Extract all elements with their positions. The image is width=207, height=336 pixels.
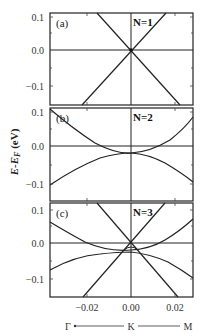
panel-a: (a) N=1 0.1 0.0 −0.1: [26, 12, 193, 105]
panel-c: (c) N=3 0.1 0.0 −0.1: [26, 203, 193, 297]
panel-c-upper-band: [50, 219, 193, 250]
y-axis-label: E-EF (eV): [8, 128, 22, 176]
xtick-0: −0.02: [75, 302, 98, 313]
panel-c-tag: (c): [56, 207, 69, 220]
panel-a-dirac-point: [129, 48, 133, 52]
panel-b-n-label: N=2: [133, 111, 153, 123]
panel-a-ytick-2: −0.1: [26, 81, 44, 92]
xtick-2: 0.02: [166, 302, 184, 313]
kpath-gamma: Γ: [65, 321, 71, 332]
kpath-k: K: [127, 321, 135, 332]
panel-a-frame: [50, 13, 193, 105]
panel-c-ytick-2: −0.1: [26, 274, 44, 285]
panel-c-ytick-1: 0.0: [32, 238, 45, 249]
panel-b-frame: [50, 108, 193, 201]
panel-a-ticks: [50, 13, 193, 105]
panel-b-tag: (b): [56, 112, 69, 125]
kpath-m: M: [184, 321, 193, 332]
panel-a-ytick-1: 0.0: [32, 45, 45, 56]
panel-b-valence-band: [50, 153, 193, 185]
panel-b-ticks: [50, 108, 193, 201]
panel-b-ytick-1: 0.0: [32, 141, 45, 152]
band-structure-figure: (a) N=1 0.1 0.0 −0.1 (b) N=2 0.1 0.0 −0.…: [0, 0, 207, 336]
panel-b-ytick-2: −0.1: [26, 179, 44, 190]
panel-b: (b) N=2 0.1 0.0 −0.1: [26, 107, 193, 201]
panel-c-ytick-0: 0.1: [32, 205, 45, 216]
panel-c-lower-band: [50, 252, 193, 278]
panel-a-ytick-0: 0.1: [32, 12, 45, 23]
xtick-1: 0.00: [122, 302, 140, 313]
panel-a-band-1: [82, 13, 166, 105]
panel-c-n-label: N=3: [133, 206, 153, 218]
panel-b-ytick-0: 0.1: [32, 107, 45, 118]
panel-a-n-label: N=1: [133, 16, 153, 28]
panel-a-tag: (a): [56, 17, 69, 30]
